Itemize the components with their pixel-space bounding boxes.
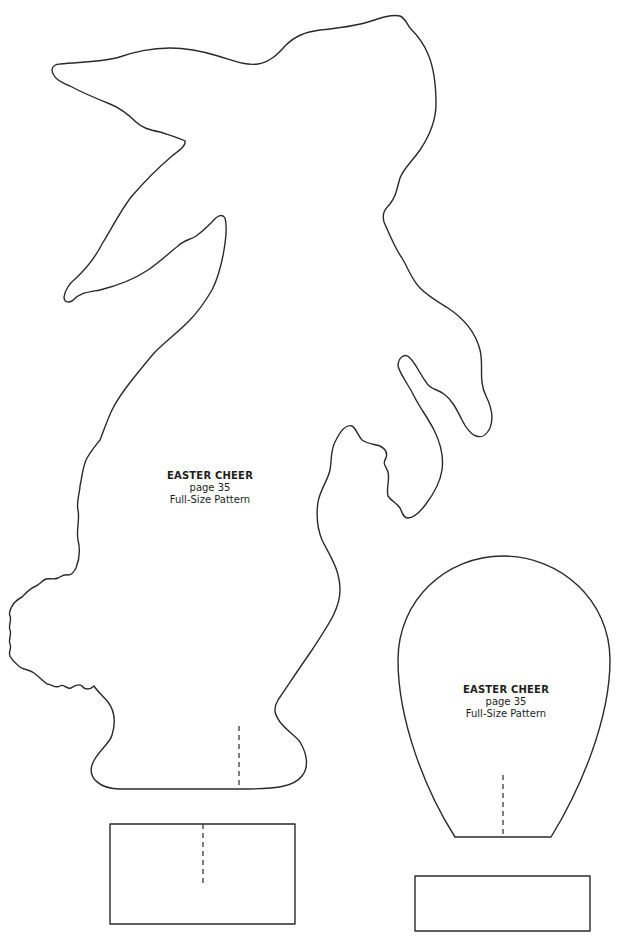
pattern-sheet: EASTER CHEER page 35 Full-Size Pattern E… xyxy=(0,0,621,941)
bunny-label-page: page 35 xyxy=(140,482,280,494)
bunny-label-title: EASTER CHEER xyxy=(140,470,280,482)
bunny-outline xyxy=(9,15,492,789)
bunny-pattern-label: EASTER CHEER page 35 Full-Size Pattern xyxy=(140,470,280,506)
pattern-drawing xyxy=(0,0,621,941)
egg-pattern-label: EASTER CHEER page 35 Full-Size Pattern xyxy=(436,684,576,720)
egg-label-page: page 35 xyxy=(436,696,576,708)
egg-label-title: EASTER CHEER xyxy=(436,684,576,696)
egg-label-subtitle: Full-Size Pattern xyxy=(436,708,576,720)
bunny-label-subtitle: Full-Size Pattern xyxy=(140,494,280,506)
egg-base-rectangle xyxy=(415,876,590,931)
